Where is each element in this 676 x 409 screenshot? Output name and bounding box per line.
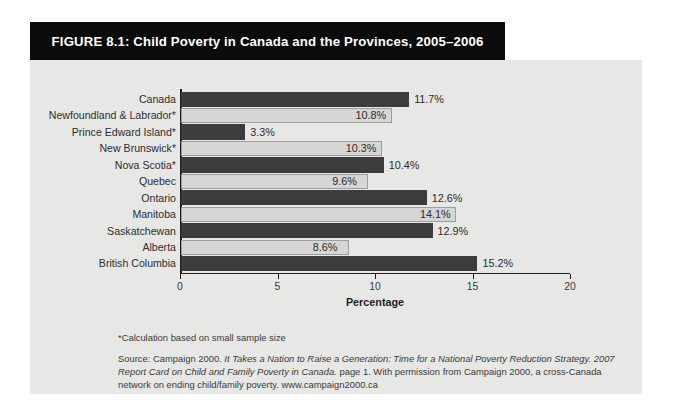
bar-row[interactable]: 14.1% xyxy=(181,206,571,222)
category-label: Nova Scotia* xyxy=(30,157,176,173)
bar-row[interactable]: 10.3% xyxy=(181,140,571,156)
bar-row[interactable]: 3.3% xyxy=(181,124,571,140)
bar[interactable] xyxy=(181,207,456,222)
bar-value-label: 8.6% xyxy=(313,239,338,255)
category-label: British Columbia xyxy=(30,255,176,271)
bar-row[interactable]: 15.2% xyxy=(181,255,571,271)
source-text: Source: Campaign 2000. It Takes a Nation… xyxy=(118,352,618,392)
x-tick-label: 5 xyxy=(275,281,281,292)
bar[interactable] xyxy=(181,256,477,271)
category-label: Canada xyxy=(30,91,176,107)
bar-chart: CanadaNewfoundland & Labrador*Prince Edw… xyxy=(30,60,642,310)
category-label: Ontario xyxy=(30,190,176,206)
x-tick-label: 10 xyxy=(369,281,381,292)
category-label: Manitoba xyxy=(30,206,176,222)
category-label: Prince Edward Island* xyxy=(30,124,176,140)
bar[interactable] xyxy=(181,223,433,238)
bar-row[interactable]: 8.6% xyxy=(181,239,571,255)
figure-title-bar: FIGURE 8.1: Child Poverty in Canada and … xyxy=(30,22,505,60)
source-lead: Source: Campaign 2000. xyxy=(118,353,224,364)
bar[interactable] xyxy=(181,92,409,107)
bar[interactable] xyxy=(181,190,427,205)
bar-row[interactable]: 10.4% xyxy=(181,157,571,173)
category-label: Newfoundland & Labrador* xyxy=(30,107,176,123)
x-tick-label: 0 xyxy=(177,281,183,292)
x-tick xyxy=(473,274,474,279)
bar-row[interactable]: 11.7% xyxy=(181,91,571,107)
bar-value-label: 3.3% xyxy=(250,124,275,140)
x-tick-label: 20 xyxy=(564,281,576,292)
bar-value-label: 14.1% xyxy=(420,206,451,222)
bar-value-label: 12.6% xyxy=(432,190,463,206)
category-label: Alberta xyxy=(30,239,176,255)
category-axis-labels: CanadaNewfoundland & Labrador*Prince Edw… xyxy=(30,91,176,272)
bar-value-label: 10.3% xyxy=(346,140,377,156)
x-tick-label: 15 xyxy=(467,281,479,292)
bar[interactable] xyxy=(181,157,384,172)
bar-value-label: 10.8% xyxy=(356,107,387,123)
bar-row[interactable]: 12.9% xyxy=(181,223,571,239)
bar-value-label: 15.2% xyxy=(482,255,513,271)
category-label: Saskatchewan xyxy=(30,223,176,239)
category-label: New Brunswick* xyxy=(30,140,176,156)
bar-row[interactable]: 9.6% xyxy=(181,173,571,189)
category-label: Quebec xyxy=(30,173,176,189)
bar[interactable] xyxy=(181,124,245,139)
bar-row[interactable]: 12.6% xyxy=(181,190,571,206)
bar-value-label: 9.6% xyxy=(332,173,357,189)
bar-row[interactable]: 10.8% xyxy=(181,107,571,123)
x-tick xyxy=(180,274,181,279)
x-tick xyxy=(570,274,571,279)
bar-value-label: 10.4% xyxy=(389,157,420,173)
plot-area: 11.7%10.8%3.3%10.3%10.4%9.6%12.6%14.1%12… xyxy=(181,91,571,272)
bar-value-label: 12.9% xyxy=(438,223,469,239)
footnote-text: *Calculation based on small sample size xyxy=(118,332,286,343)
figure-panel: CanadaNewfoundland & Labrador*Prince Edw… xyxy=(30,60,642,394)
x-tick xyxy=(375,274,376,279)
x-axis-title: Percentage xyxy=(346,296,404,308)
x-tick xyxy=(278,274,279,279)
bar-value-label: 11.7% xyxy=(414,91,444,107)
page-title: FIGURE 8.1: Child Poverty in Canada and … xyxy=(52,34,484,49)
